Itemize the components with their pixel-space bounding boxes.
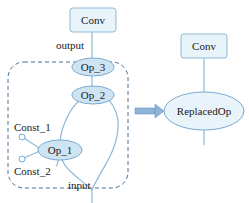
left-edges	[24, 32, 118, 203]
op2-node[interactable]: Op_2	[72, 86, 114, 104]
op1-label: Op_1	[48, 144, 72, 156]
diagram-canvas: Conv output Op_3 Op_2 Op_1 Const_1 Const…	[0, 0, 249, 203]
replaced-op-label: ReplacedOp	[177, 105, 232, 117]
left-conv-node[interactable]: Conv	[70, 8, 116, 32]
op3-node[interactable]: Op_3	[72, 58, 114, 76]
replaced-op-node[interactable]: ReplacedOp	[164, 92, 244, 130]
const-1-port	[19, 134, 25, 140]
op1-node[interactable]: Op_1	[38, 140, 82, 160]
right-conv-node[interactable]: Conv	[181, 34, 227, 58]
replace-arrow-icon	[135, 104, 164, 118]
op2-label: Op_2	[81, 89, 105, 101]
right-conv-label: Conv	[192, 40, 216, 52]
left-conv-label: Conv	[81, 14, 105, 26]
output-label: output	[56, 39, 84, 51]
const-2-label: Const_2	[14, 165, 51, 177]
op3-label: Op_3	[81, 61, 106, 73]
input-label: input	[68, 179, 91, 191]
const-2-port	[19, 156, 25, 162]
const-1-label: Const_1	[14, 121, 51, 133]
